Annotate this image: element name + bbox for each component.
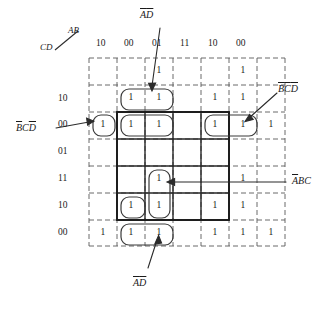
kmap-cell-one: 1 <box>157 174 162 184</box>
kmap-cell-one: 1 <box>213 228 218 238</box>
annotation-abc-right-c: C <box>304 175 311 186</box>
annotation-ad-top: AD <box>140 10 153 20</box>
kmap-cell-one: 1 <box>157 120 162 130</box>
annotation-bcd-right-c: C <box>284 83 291 94</box>
kmap-cell-one: 1 <box>269 228 274 238</box>
kmap-cell-one: 1 <box>157 201 162 211</box>
kmap-cell-one: 1 <box>101 120 106 130</box>
kmap-cell-one: 1 <box>129 93 134 103</box>
annotation-ad-top-d: D <box>146 9 153 20</box>
kmap-cell-one: 1 <box>241 201 246 211</box>
kmap-cell-one: 1 <box>157 93 162 103</box>
annotation-bcd-left-c: C <box>22 122 29 133</box>
kmap-cell-one: 1 <box>213 201 218 211</box>
annotation-ad-bottom-d: D <box>139 277 146 288</box>
annotation-abc-right: ABC <box>292 176 311 186</box>
kmap-cell-one: 1 <box>241 120 246 130</box>
annotation-ad-bottom: AD <box>133 278 146 288</box>
annotation-bcd-left-d: D <box>29 122 36 133</box>
annotation-bcd-right-d: D <box>291 83 298 94</box>
kmap-cell-one: 1 <box>101 228 106 238</box>
kmap-cell-one: 1 <box>241 93 246 103</box>
kmap-cell-one: 1 <box>241 174 246 184</box>
kmap-cell-one: 1 <box>129 120 134 130</box>
annotation-bcd-left: BCD <box>16 123 36 133</box>
kmap-cell-one: 1 <box>269 120 274 130</box>
karnaugh-map-diagram: CD AB 10 00 01 11 10 00 10 00 01 11 10 0… <box>0 0 331 309</box>
kmap-cell-one: 1 <box>213 93 218 103</box>
kmap-cell-one: 1 <box>241 66 246 76</box>
kmap-cell-one: 1 <box>241 228 246 238</box>
kmap-cell-one: 1 <box>129 201 134 211</box>
kmap-cell-one: 1 <box>129 228 134 238</box>
kmap-cell-one: 1 <box>213 120 218 130</box>
kmap-cell-one: 1 <box>157 66 162 76</box>
kmap-cells-layer: 111111111111111111111111 <box>0 0 331 309</box>
kmap-cell-one: 1 <box>157 228 162 238</box>
annotation-bcd-right: BCD <box>278 84 298 94</box>
